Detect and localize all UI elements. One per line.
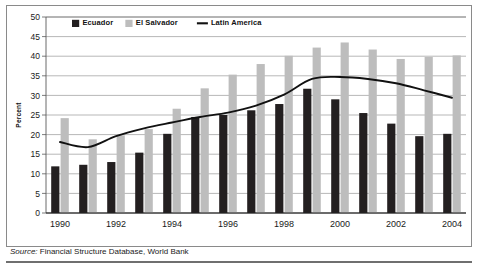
x-tick-labels: 19901992199419961998200020022004 bbox=[50, 219, 462, 229]
legend-swatch-ecuador bbox=[72, 20, 79, 27]
svg-text:35: 35 bbox=[31, 71, 41, 81]
source-value: Financial Structure Database, World Bank bbox=[38, 247, 189, 256]
svg-text:0: 0 bbox=[35, 208, 40, 218]
bar-el-salvador bbox=[285, 56, 293, 213]
bar-el-salvador bbox=[257, 64, 265, 213]
bar-ecuador bbox=[219, 115, 227, 213]
bar-ecuador bbox=[135, 153, 143, 213]
svg-text:40: 40 bbox=[31, 51, 41, 61]
x-tick-label: 1994 bbox=[162, 219, 182, 229]
bar-el-salvador bbox=[89, 139, 97, 213]
figure-container: 05101520253035404550 1990199219941996199… bbox=[0, 0, 478, 265]
bar-el-salvador bbox=[201, 88, 209, 213]
svg-text:20: 20 bbox=[31, 130, 41, 140]
chart-legend: EcuadorEl SalvadorLatin America bbox=[72, 18, 262, 27]
bar-ecuador bbox=[191, 117, 199, 213]
bar-el-salvador bbox=[145, 129, 153, 213]
chart-area: 05101520253035404550 1990199219941996199… bbox=[0, 0, 478, 265]
bar-ecuador bbox=[415, 136, 423, 213]
bar-ecuador bbox=[275, 104, 283, 213]
x-tick-label: 1996 bbox=[218, 219, 238, 229]
svg-text:45: 45 bbox=[31, 32, 41, 42]
x-tick-label: 2002 bbox=[386, 219, 406, 229]
bar-ecuador bbox=[163, 134, 171, 213]
bar-el-salvador bbox=[61, 118, 69, 213]
bar-el-salvador bbox=[397, 59, 405, 213]
svg-text:5: 5 bbox=[35, 189, 40, 199]
bar-el-salvador bbox=[453, 55, 461, 213]
legend-swatch-el-salvador bbox=[125, 20, 132, 27]
bar-ecuador bbox=[359, 113, 367, 213]
legend-label-el-salvador: El Salvador bbox=[136, 18, 178, 27]
svg-text:10: 10 bbox=[31, 169, 41, 179]
bar-ecuador bbox=[303, 89, 311, 213]
bar-el-salvador bbox=[173, 109, 181, 213]
svg-text:50: 50 bbox=[31, 12, 41, 22]
bar-ecuador bbox=[443, 134, 451, 213]
x-tick-label: 2004 bbox=[442, 219, 462, 229]
source-note: Source: Financial Structure Database, Wo… bbox=[10, 247, 189, 256]
bars-el-salvador bbox=[61, 42, 461, 213]
bar-el-salvador bbox=[313, 48, 321, 213]
bar-el-salvador bbox=[369, 50, 377, 213]
x-tick-label: 1998 bbox=[274, 219, 294, 229]
legend-label-ecuador: Ecuador bbox=[83, 18, 114, 27]
bar-el-salvador bbox=[425, 57, 433, 213]
y-axis-title: Percent bbox=[15, 102, 22, 128]
bar-ecuador bbox=[387, 124, 395, 213]
bar-el-salvador bbox=[341, 42, 349, 213]
bar-ecuador bbox=[331, 99, 339, 213]
bar-ecuador bbox=[51, 166, 59, 213]
bar-ecuador bbox=[247, 110, 255, 213]
y-tick-labels: 05101520253035404550 bbox=[31, 12, 46, 218]
bar-ecuador bbox=[107, 162, 115, 213]
legend-label-latin-america: Latin America bbox=[211, 18, 262, 27]
x-tick-label: 2000 bbox=[330, 219, 350, 229]
y-axis-title-text: Percent bbox=[15, 102, 22, 128]
svg-text:15: 15 bbox=[31, 149, 41, 159]
svg-text:25: 25 bbox=[31, 110, 41, 120]
x-tick-label: 1990 bbox=[50, 219, 70, 229]
bar-el-salvador bbox=[229, 75, 237, 213]
x-tick-label: 1992 bbox=[106, 219, 126, 229]
source-label: Source: bbox=[10, 247, 38, 256]
svg-text:30: 30 bbox=[31, 91, 41, 101]
bar-el-salvador bbox=[117, 135, 125, 213]
bar-ecuador bbox=[79, 165, 87, 213]
bottom-rule bbox=[6, 261, 472, 263]
chart-svg: 05101520253035404550 1990199219941996199… bbox=[0, 0, 478, 265]
